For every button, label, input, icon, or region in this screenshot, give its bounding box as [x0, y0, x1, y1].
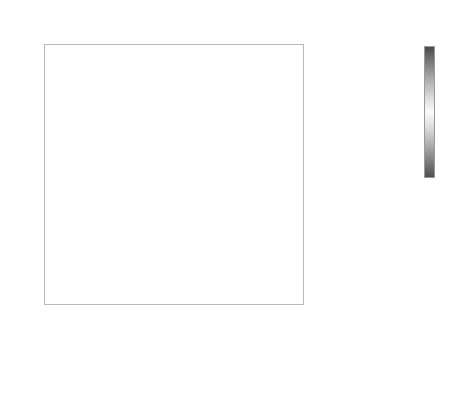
heatmap-grid[interactable]	[44, 44, 304, 305]
colorbar-gradient	[424, 46, 435, 178]
row-label-axis	[310, 44, 422, 305]
clustered-heatmap-figure	[0, 0, 458, 396]
column-label-axis	[44, 306, 304, 372]
colorbar-legend	[424, 46, 458, 178]
